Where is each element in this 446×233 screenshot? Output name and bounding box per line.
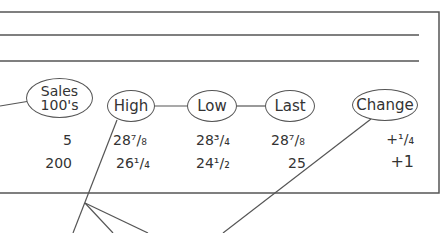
- row1-low: 28³/₄: [196, 132, 230, 148]
- header-last-label: Last: [274, 99, 305, 114]
- row2-change: +1: [370, 152, 414, 171]
- header-low-label: Low: [197, 99, 227, 114]
- row2-high: 26¹/₄: [116, 155, 150, 171]
- row2-sales: 200: [40, 155, 72, 171]
- header-high-label: High: [114, 99, 148, 114]
- pointer-high: [73, 120, 117, 233]
- row1-change: +¹/₄: [370, 131, 414, 147]
- header-low-oval: Low: [187, 90, 237, 122]
- header-sales-line2: 100's: [41, 98, 79, 112]
- header-sales-line1: Sales: [41, 84, 78, 98]
- header-change-label: Change: [356, 98, 413, 113]
- header-high-oval: High: [107, 90, 155, 122]
- row1-last: 28⁷/₈: [271, 132, 305, 148]
- header-change-oval: Change: [352, 89, 418, 121]
- pointer-branch-1: [85, 203, 113, 233]
- row1-high: 28⁷/₈: [113, 132, 147, 148]
- pointer-branch-2: [85, 203, 148, 233]
- pointer-sales: [0, 101, 30, 106]
- header-sales-oval: Sales 100's: [26, 78, 93, 118]
- header-last-oval: Last: [265, 90, 315, 122]
- row2-low: 24¹/₂: [196, 155, 230, 171]
- row2-last: 25: [288, 155, 306, 171]
- row1-sales: 5: [40, 132, 72, 148]
